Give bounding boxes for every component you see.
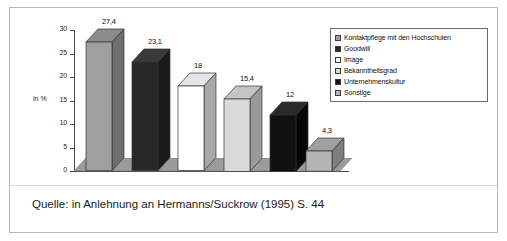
bar-value-label: 27,4 <box>102 17 116 26</box>
chart-plot-area: in % 302520151050 27,423,11815,4124,3 Ko… <box>0 0 507 185</box>
bar-value-label: 12 <box>286 90 294 99</box>
y-axis-tick: 30 <box>70 30 74 31</box>
legend-item-label: Kontaktpflege mit den Hochschulen <box>344 33 451 42</box>
bar <box>270 102 310 173</box>
bar-value-label: 4,3 <box>322 126 332 135</box>
legend-swatch-icon <box>335 68 341 74</box>
legend-item-label: Unternehmenskultur <box>344 77 405 86</box>
bar <box>224 86 264 173</box>
legend-item-label: Sonstige <box>344 88 370 97</box>
chart-legend: Kontaktpflege mit den HochschulenGoodwil… <box>330 28 488 102</box>
bar <box>306 138 346 173</box>
legend-swatch-icon <box>335 46 341 52</box>
y-axis-tick-label: 10 <box>60 119 67 126</box>
bar <box>132 49 172 173</box>
y-axis-tick: 25 <box>70 54 74 55</box>
legend-item: Image <box>335 54 484 65</box>
y-axis-tick-label: 0 <box>63 166 67 173</box>
caption-divider <box>10 185 497 186</box>
y-axis-tick: 10 <box>70 124 74 125</box>
figure-container: in % 302520151050 27,423,11815,4124,3 Ko… <box>0 0 507 241</box>
y-axis-title: in % <box>33 95 47 102</box>
source-caption: Quelle: in Anlehnung an Hermanns/Suckrow… <box>32 198 324 210</box>
y-axis-tick: 20 <box>70 77 74 78</box>
legend-item-label: Goodwill <box>344 44 370 53</box>
legend-item-label: Bekanntheitsgrad <box>344 66 397 75</box>
y-axis-tick-label: 30 <box>60 25 67 32</box>
y-axis-tick: 15 <box>70 101 74 102</box>
legend-item-label: Image <box>344 55 363 64</box>
legend-swatch-icon <box>335 79 341 85</box>
legend-item: Sonstige <box>335 87 484 98</box>
y-axis-tick-label: 15 <box>60 96 67 103</box>
legend-item: Kontaktpflege mit den Hochschulen <box>335 32 484 43</box>
bar-value-label: 23,1 <box>148 37 162 46</box>
legend-swatch-icon <box>335 35 341 41</box>
y-axis-tick-label: 25 <box>60 49 67 56</box>
legend-swatch-icon <box>335 57 341 63</box>
y-axis-tick-label: 20 <box>60 72 67 79</box>
bar-value-label: 18 <box>194 61 202 70</box>
bar-value-label: 15,4 <box>240 74 254 83</box>
legend-item: Bekanntheitsgrad <box>335 65 484 76</box>
y-axis-tick-label: 5 <box>63 143 67 150</box>
y-axis-line <box>74 30 75 172</box>
y-axis-tick: 5 <box>70 148 74 149</box>
legend-item: Unternehmenskultur <box>335 76 484 87</box>
bar <box>178 73 218 173</box>
bar <box>86 29 126 173</box>
legend-swatch-icon <box>335 90 341 96</box>
legend-item: Goodwill <box>335 43 484 54</box>
